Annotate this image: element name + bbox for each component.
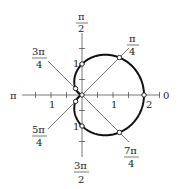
svg-text:2: 2: [78, 174, 84, 185]
angle-label-pi-2: π 2: [76, 11, 88, 34]
angle-label-7pi-4: 7π 4: [124, 145, 139, 169]
radial-label-x-1: 1: [111, 99, 117, 110]
svg-text:2: 2: [78, 23, 84, 34]
marked-point: [142, 93, 146, 97]
svg-text:7π: 7π: [124, 145, 137, 156]
svg-text:5π: 5π: [32, 124, 45, 135]
angle-label-pi: π: [10, 90, 17, 101]
angle-label-3pi-2: 3π 2: [74, 160, 89, 185]
svg-text:3π: 3π: [32, 46, 45, 57]
marked-point: [80, 62, 84, 66]
radial-label-y-1: 1: [73, 58, 79, 69]
marked-point: [80, 124, 84, 128]
svg-text:π: π: [129, 33, 136, 44]
angle-label-pi-4: π 4: [127, 33, 139, 57]
marked-point: [117, 130, 121, 134]
marked-point: [73, 86, 77, 90]
polar-plot: 0 π 1 1 2 1 1 π 2 π 4 3π 4 5π 4 3π 2 7π …: [0, 0, 183, 189]
svg-text:4: 4: [129, 46, 135, 57]
radial-label-x-2: 2: [146, 99, 152, 110]
svg-text:4: 4: [128, 158, 134, 169]
radial-label-neg-x-1: 1: [49, 99, 55, 110]
marked-point: [80, 93, 84, 97]
radial-label-neg-y-1: 1: [73, 121, 79, 132]
svg-text:3π: 3π: [74, 160, 87, 171]
angle-label-0: 0: [163, 90, 169, 101]
marked-point: [117, 55, 121, 59]
marked-point: [73, 99, 77, 103]
angle-label-5pi-4: 5π 4: [32, 124, 47, 148]
svg-text:4: 4: [36, 137, 42, 148]
svg-text:4: 4: [36, 59, 42, 70]
svg-text:π: π: [78, 11, 85, 22]
angle-label-3pi-4: 3π 4: [32, 46, 47, 70]
